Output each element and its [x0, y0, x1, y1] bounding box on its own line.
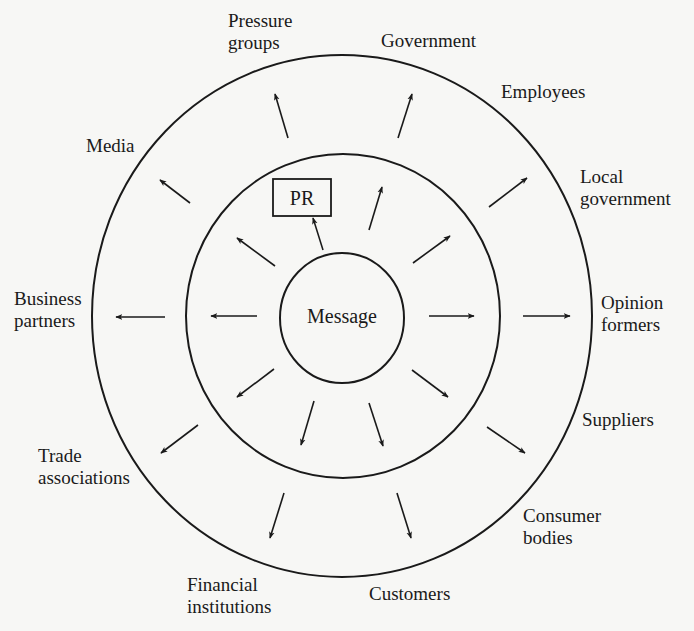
stakeholder-label-line: bodies: [523, 527, 573, 548]
arrow-icon: [397, 493, 411, 538]
stakeholder-label-line: partners: [14, 310, 75, 331]
stakeholder-label-suppliers: Suppliers: [582, 409, 654, 430]
stakeholder-label-line: Financial: [187, 574, 258, 595]
stakeholder-diagram: PR Message PressuregroupsGovernmentEmplo…: [0, 0, 694, 631]
arrow-icon: [270, 493, 284, 538]
stakeholder-label-line: Trade: [38, 445, 82, 466]
arrow-icon: [160, 180, 190, 203]
stakeholder-label-line: Suppliers: [582, 409, 654, 430]
arrow-icon: [489, 178, 527, 207]
stakeholder-label-line: Pressure: [228, 10, 292, 31]
stakeholder-label-line: Customers: [369, 583, 450, 604]
stakeholder-label-local-government: Localgovernment: [580, 166, 671, 209]
arrow-icon: [237, 238, 275, 266]
stakeholder-label-line: associations: [38, 467, 130, 488]
stakeholder-label-line: Business: [14, 288, 82, 309]
stakeholder-label-line: groups: [228, 32, 280, 53]
stakeholder-label-line: Opinion: [601, 292, 664, 313]
stakeholder-label-line: Government: [381, 30, 477, 51]
arrow-icon: [412, 370, 448, 397]
arrow-icon: [275, 94, 288, 138]
stakeholder-label-line: Consumer: [523, 505, 602, 526]
message-label: Message: [307, 305, 377, 328]
stakeholder-label-line: government: [580, 188, 671, 209]
arrow-icon: [398, 94, 412, 138]
stakeholder-label-financial-institutions: Financialinstitutions: [187, 574, 271, 617]
arrow-icon: [313, 218, 323, 250]
pr-box-group: PR: [273, 179, 331, 216]
stakeholder-label-business-partners: Businesspartners: [14, 288, 82, 331]
stakeholder-label-trade-associations: Tradeassociations: [38, 445, 130, 488]
arrow-icon: [161, 425, 198, 453]
stakeholder-label-employees: Employees: [501, 81, 585, 102]
arrow-icon: [487, 427, 525, 453]
stakeholder-label-line: formers: [601, 314, 660, 335]
stakeholder-label-media: Media: [86, 135, 135, 156]
pr-label: PR: [290, 187, 315, 209]
arrow-icon: [413, 236, 450, 263]
arrow-icon: [301, 401, 314, 445]
stakeholder-label-government: Government: [381, 30, 477, 51]
stakeholder-label-line: Local: [580, 166, 623, 187]
stakeholder-label-opinion-formers: Opinionformers: [601, 292, 664, 335]
arrow-icon: [237, 369, 274, 397]
stakeholder-label-customers: Customers: [369, 583, 450, 604]
stakeholder-label-line: Employees: [501, 81, 585, 102]
stakeholder-label-line: institutions: [187, 596, 271, 617]
stakeholder-label-pressure-groups: Pressuregroups: [228, 10, 292, 53]
arrow-icon: [369, 403, 383, 446]
arrow-icon: [369, 187, 382, 230]
stakeholder-label-consumer-bodies: Consumerbodies: [523, 505, 602, 548]
stakeholder-label-line: Media: [86, 135, 135, 156]
